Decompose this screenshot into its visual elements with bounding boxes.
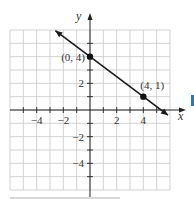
point-label: (4, 1): [140, 79, 164, 92]
side-marker: [191, 95, 194, 106]
y-axis-arrow-icon: [88, 13, 93, 20]
x-tick-label: −4: [31, 114, 43, 126]
x-tick-label: 2: [114, 114, 120, 126]
x-tick-label: −2: [57, 114, 69, 126]
graph-canvas: −4−2242−2−4 (0, 4)(4, 1) x y: [0, 0, 194, 199]
y-axis-label: y: [75, 9, 82, 23]
point-label: (0, 4): [61, 51, 85, 64]
y-tick-label: −4: [72, 157, 84, 169]
y-tick-label: −2: [72, 131, 84, 143]
x-tick-label: 4: [141, 114, 147, 126]
figure-caption-cutoff: [10, 194, 120, 199]
coordinate-graph: −4−2242−2−4 (0, 4)(4, 1) x y: [0, 0, 194, 199]
x-axis-label: x: [177, 109, 184, 123]
y-tick-label: 2: [79, 77, 85, 89]
point-marker: [140, 93, 146, 99]
point-marker: [87, 53, 93, 59]
